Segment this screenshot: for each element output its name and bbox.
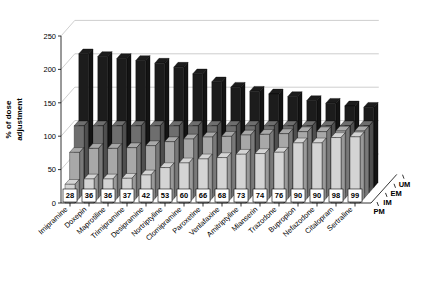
value-label-13: 90 <box>313 191 321 200</box>
depth-tick-2 <box>394 184 396 188</box>
depth-tick-0 <box>377 202 379 206</box>
value-label-14: 98 <box>332 191 340 200</box>
depth-tick-3 <box>403 175 405 179</box>
bar-side-1-15 <box>365 126 369 198</box>
value-label-7: 66 <box>199 191 207 200</box>
value-label-1: 36 <box>85 191 93 200</box>
value-label-5: 53 <box>161 191 169 200</box>
value-label-6: 60 <box>180 191 188 200</box>
value-label-0: 28 <box>66 191 74 200</box>
bar-side-1-9 <box>251 130 255 198</box>
y-axis-title-line-1: adjustment <box>15 98 24 141</box>
y-tick-label-150: 150 <box>43 99 56 108</box>
y-axis-title-line-0: % of dose <box>4 100 13 138</box>
gridline-250 <box>61 20 379 36</box>
value-label-15: 99 <box>351 191 359 200</box>
depth-label-pm: PM <box>373 207 384 216</box>
depth-label-em: EM <box>390 189 401 198</box>
bar-side-1-13 <box>327 127 331 198</box>
y-tick-label-200: 200 <box>43 65 56 74</box>
bar-side-3-15 <box>374 102 378 187</box>
value-label-3: 37 <box>123 191 131 200</box>
y-tick-label-50: 50 <box>48 165 56 174</box>
value-label-4: 42 <box>142 191 150 200</box>
value-label-10: 74 <box>256 191 265 200</box>
depth-label-im: IM <box>383 198 391 207</box>
value-label-12: 90 <box>294 191 302 200</box>
value-label-9: 73 <box>237 191 245 200</box>
y-tick-label-250: 250 <box>43 32 56 41</box>
value-label-8: 68 <box>218 191 226 200</box>
bar-side-1-8 <box>232 132 236 198</box>
bar-side-1-12 <box>308 127 312 198</box>
bar-side-1-5 <box>175 137 179 198</box>
bar-side-2-15 <box>369 121 373 193</box>
value-label-11: 76 <box>275 191 283 200</box>
value-label-2: 36 <box>104 191 112 200</box>
depth-label-um: UM <box>399 180 411 189</box>
depth-tick-1 <box>386 193 388 197</box>
bar-side-1-14 <box>346 126 350 198</box>
chart-figure: 050100150200250% of doseadjustment283636… <box>0 0 442 281</box>
bar-side-1-7 <box>213 132 217 198</box>
y-tick-label-100: 100 <box>43 132 56 141</box>
y-tick-label-0: 0 <box>52 199 56 208</box>
chart-svg: 050100150200250% of doseadjustment283636… <box>0 0 442 281</box>
bar-side-1-6 <box>194 134 198 198</box>
bar-side-1-11 <box>289 129 293 198</box>
bar-side-1-10 <box>270 130 274 198</box>
